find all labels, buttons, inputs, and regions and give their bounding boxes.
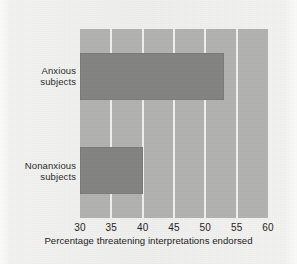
x-tick-label-45: 45 bbox=[161, 221, 187, 234]
figure-bar-chart: AnxioussubjectsNonanxioussubjects 303540… bbox=[0, 0, 297, 264]
x-tick-label-30: 30 bbox=[67, 221, 93, 234]
x-tick-label-55: 55 bbox=[224, 221, 250, 234]
y-label-nonanxious-subjects: Nonanxioussubjects bbox=[2, 160, 76, 182]
x-tick-label-60: 60 bbox=[255, 221, 281, 234]
y-label-line: Anxious bbox=[2, 65, 76, 76]
y-label-anxious-subjects: Anxioussubjects bbox=[2, 65, 76, 87]
x-axis-tick-labels: 30354045505560 bbox=[80, 221, 268, 234]
y-label-line: subjects bbox=[2, 76, 76, 87]
x-axis-title: Percentage threatening interpretations e… bbox=[0, 235, 297, 247]
gridline-55 bbox=[236, 29, 238, 218]
y-label-line: subjects bbox=[2, 171, 76, 182]
plot-area bbox=[80, 29, 268, 218]
bar-nonanxious-subjects bbox=[80, 147, 143, 194]
x-tick-label-35: 35 bbox=[98, 221, 124, 234]
bar-anxious-subjects bbox=[80, 53, 224, 100]
x-tick-label-50: 50 bbox=[192, 221, 218, 234]
y-axis-category-labels: AnxioussubjectsNonanxioussubjects bbox=[0, 29, 76, 218]
x-tick-label-40: 40 bbox=[130, 221, 156, 234]
y-label-line: Nonanxious bbox=[2, 160, 76, 171]
